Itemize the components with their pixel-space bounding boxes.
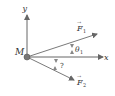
angle2-label: ? xyxy=(60,62,64,70)
force2-vector xyxy=(27,57,74,80)
force1-label: F xyxy=(76,24,83,33)
force2-subscript: 2 xyxy=(83,82,86,88)
force2-label: F xyxy=(76,78,83,87)
force-diagram: M y x → F 1 → F 2 θ 1 ? xyxy=(0,0,115,96)
origin-label: M xyxy=(14,47,25,57)
diagram-svg: M y x → F 1 → F 2 θ 1 ? xyxy=(0,0,115,96)
force1-subscript: 1 xyxy=(83,28,86,34)
angle1-subscript: 1 xyxy=(80,49,83,55)
y-axis-label: y xyxy=(22,4,28,13)
force1-vector xyxy=(27,34,97,57)
x-axis-label: x xyxy=(104,53,109,62)
origin-point xyxy=(24,54,30,60)
